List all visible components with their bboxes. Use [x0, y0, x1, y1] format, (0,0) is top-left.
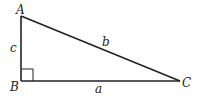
side-label-b: b: [102, 35, 110, 49]
vertex-label-c: C: [182, 76, 191, 90]
right-triangle-diagram: A c B b a C: [0, 0, 201, 96]
side-label-c: c: [10, 41, 17, 55]
vertex-label-b: B: [9, 80, 19, 94]
side-label-a: a: [95, 82, 102, 96]
triangle: [21, 16, 180, 81]
side-b-line: [21, 16, 180, 81]
vertex-label-a: A: [15, 3, 25, 17]
right-angle-marker: [22, 69, 33, 81]
